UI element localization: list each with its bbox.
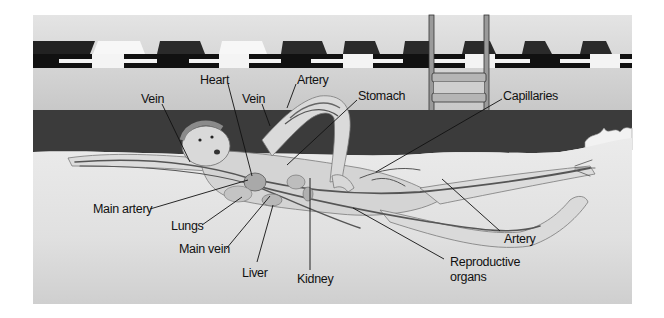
- label-stomach: Stomach: [358, 89, 405, 103]
- liver-organ: [262, 194, 282, 206]
- label-liver: Liver: [242, 266, 268, 280]
- stomach-organ: [287, 175, 305, 189]
- swimmer-illustration: [0, 0, 664, 318]
- label-heart: Heart: [200, 73, 229, 87]
- label-lungs: Lungs: [171, 219, 204, 233]
- label-vein-arm: Vein: [242, 92, 265, 106]
- label-main-vein: Main vein: [179, 242, 230, 256]
- label-artery-leg: Artery: [504, 232, 536, 246]
- label-reproductive-organs-line2: organs: [450, 270, 486, 284]
- water-surface: [33, 110, 632, 155]
- label-vein-left: Vein: [141, 92, 164, 106]
- label-reproductive-organs-line1: Reproductive: [450, 255, 520, 269]
- diagram-canvas: Vein Heart Vein Artery Stomach Capillari…: [0, 0, 664, 318]
- kidney-organ: [303, 187, 313, 201]
- label-artery-arm: Artery: [297, 73, 329, 87]
- label-kidney: Kidney: [297, 272, 333, 286]
- label-capillaries: Capillaries: [503, 89, 558, 103]
- label-main-artery: Main artery: [93, 202, 152, 216]
